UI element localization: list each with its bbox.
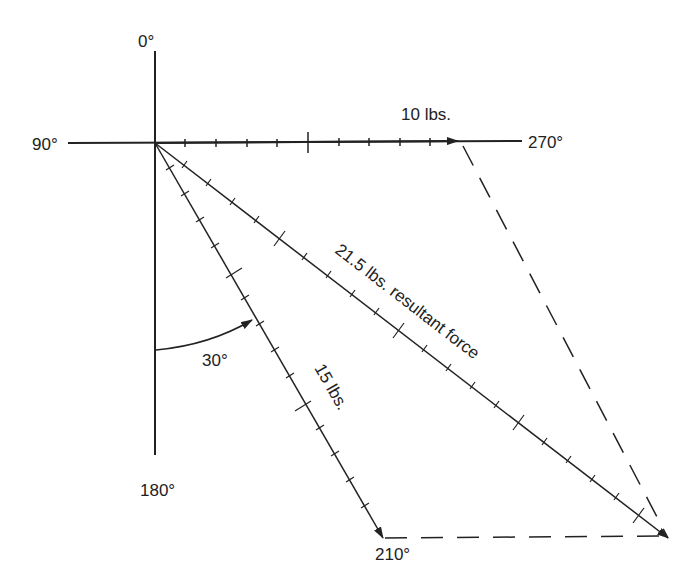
label-90-deg: 90° [32,135,58,154]
force-vector-diagram: 0° 90° 270° 180° 10 lbs. 30° 210° 15 lbs… [0,0,700,587]
label-15-lbs: 15 lbs. [311,361,353,414]
label-30-deg: 30° [202,351,228,370]
vector-15-lbs [155,143,383,538]
vector-resultant [155,143,668,538]
label-180-deg: 180° [140,481,175,500]
label-0-deg: 0° [138,32,154,51]
label-270-deg: 270° [528,133,563,152]
axes [68,51,522,455]
label-210-deg: 210° [375,545,410,564]
vector-10-lbs [155,132,458,153]
dashed-construction-lines [385,146,668,538]
angle-arc [156,320,252,350]
label-resultant: 21.5 lbs. resultant force [332,240,484,363]
label-10-lbs: 10 lbs. [401,105,451,124]
